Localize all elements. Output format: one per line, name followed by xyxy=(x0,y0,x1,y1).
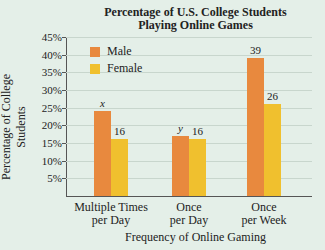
y-tick xyxy=(62,125,66,126)
y-tick-label: 35% xyxy=(28,67,62,78)
y-tick xyxy=(62,161,66,162)
x-axis-label: Frequency of Online Gaming xyxy=(66,230,325,245)
bar-female xyxy=(189,139,206,196)
y-tick xyxy=(62,143,66,144)
y-tick-label: 25% xyxy=(28,103,62,114)
y-axis-line xyxy=(66,37,67,197)
y-tick-label: 40% xyxy=(28,50,62,61)
legend-item-male: Male xyxy=(90,43,142,60)
y-tick xyxy=(62,37,66,38)
legend-swatch-female xyxy=(90,64,100,74)
legend-swatch-male xyxy=(90,47,100,57)
bar-value-label: 16 xyxy=(105,125,135,137)
y-tick-label: 10% xyxy=(28,156,62,167)
x-axis-line xyxy=(66,196,312,197)
bar-male xyxy=(247,58,264,196)
category-label: Onceper Week xyxy=(219,201,309,227)
y-tick xyxy=(62,178,66,179)
y-tick-label: 20% xyxy=(28,120,62,131)
chart-title: Percentage of U.S. College Students Play… xyxy=(66,6,325,32)
chart-title-line-2: Playing Online Games xyxy=(66,19,325,32)
y-tick xyxy=(62,55,66,56)
legend-label-female: Female xyxy=(107,61,142,76)
legend-item-female: Female xyxy=(90,60,142,77)
bar-female xyxy=(264,104,281,196)
bar-male xyxy=(172,136,189,196)
y-tick-label: 30% xyxy=(28,85,62,96)
bar-male xyxy=(94,111,111,196)
y-tick-label: 5% xyxy=(28,173,62,184)
bar-value-label: 16 xyxy=(183,125,213,137)
y-tick xyxy=(62,108,66,109)
gridline xyxy=(66,37,312,38)
y-axis-label: Percentage of College Students xyxy=(0,57,29,197)
y-tick-label: 15% xyxy=(28,138,62,149)
bar-female xyxy=(111,139,128,196)
category-label: Multiple Timesper Day xyxy=(66,201,156,227)
bar-value-label: 39 xyxy=(241,44,271,56)
legend: Male Female xyxy=(90,43,142,77)
bar-value-label: x xyxy=(88,97,118,109)
bar-value-label: 26 xyxy=(258,90,288,102)
y-tick xyxy=(62,72,66,73)
y-tick-label: 45% xyxy=(28,32,62,43)
legend-label-male: Male xyxy=(107,44,132,59)
y-tick xyxy=(62,90,66,91)
